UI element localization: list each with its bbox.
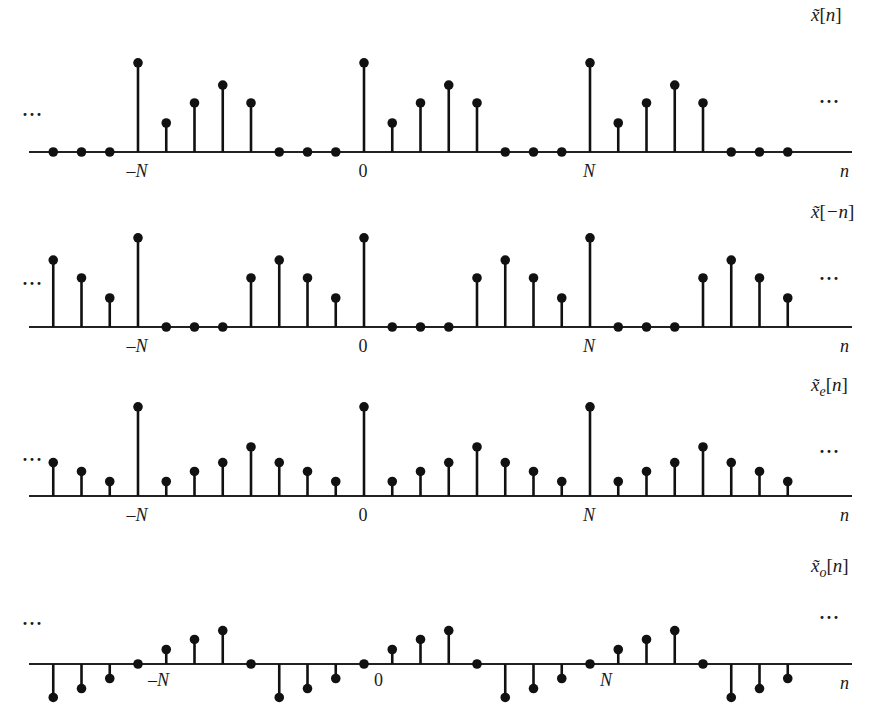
sample-dot bbox=[416, 322, 426, 332]
sample-dot bbox=[274, 458, 284, 468]
sample-dot bbox=[246, 273, 256, 283]
sample-dot bbox=[48, 458, 58, 468]
stem-sample bbox=[529, 664, 539, 693]
stem-sample bbox=[500, 147, 510, 157]
signal-label: x̃o[n] bbox=[810, 555, 849, 580]
sample-dot bbox=[557, 477, 567, 487]
sample-dot bbox=[642, 467, 652, 477]
stem-sample bbox=[274, 255, 284, 327]
sample-dot bbox=[77, 684, 87, 694]
stem-sample bbox=[613, 322, 623, 332]
axis-label-n: n bbox=[840, 673, 849, 693]
stem-sample bbox=[161, 118, 171, 152]
sample-dot bbox=[642, 322, 652, 332]
sample-dot bbox=[472, 273, 482, 283]
stem-sample bbox=[190, 635, 200, 664]
stem-sample bbox=[133, 402, 143, 496]
plot-x-reversed: –N0Nnx̃[−n]······ bbox=[22, 201, 854, 356]
sample-dot bbox=[726, 255, 736, 265]
sample-dot bbox=[246, 659, 256, 669]
stem-sample bbox=[246, 273, 256, 327]
axis-label-n: n bbox=[840, 161, 849, 181]
stem-sample bbox=[246, 98, 256, 152]
stem-sample bbox=[755, 273, 765, 327]
sample-dot bbox=[218, 626, 228, 636]
stem-sample bbox=[161, 645, 171, 664]
sample-dot bbox=[133, 58, 143, 68]
stem-sample bbox=[190, 98, 200, 152]
stem-sample bbox=[303, 147, 313, 157]
stem-sample bbox=[331, 664, 341, 683]
sample-dot bbox=[274, 255, 284, 265]
sample-dot bbox=[557, 293, 567, 303]
stem-sample bbox=[585, 233, 595, 327]
plot-x-even: –N0Nnx̃e[n]······ bbox=[22, 374, 852, 525]
stem-sample bbox=[755, 664, 765, 693]
stem-sample bbox=[529, 273, 539, 327]
sample-dot bbox=[359, 58, 369, 68]
sample-dot bbox=[246, 442, 256, 452]
sample-dot bbox=[246, 98, 256, 108]
sample-dot bbox=[190, 635, 200, 645]
sample-dot bbox=[726, 147, 736, 157]
sample-dot bbox=[133, 402, 143, 412]
stem-sample bbox=[218, 80, 228, 152]
sample-dot bbox=[472, 659, 482, 669]
sample-dot bbox=[444, 80, 454, 90]
stem-sample bbox=[133, 659, 143, 669]
stem-sample bbox=[161, 322, 171, 332]
sample-dot bbox=[726, 458, 736, 468]
stem-sample bbox=[585, 659, 595, 669]
stem-sample bbox=[105, 664, 115, 683]
sample-dot bbox=[500, 255, 510, 265]
sample-dot bbox=[387, 118, 397, 128]
sample-dot bbox=[557, 674, 567, 684]
stem-sample bbox=[670, 80, 680, 152]
sample-dot bbox=[359, 659, 369, 669]
stem-sample bbox=[359, 58, 369, 152]
stem-sample bbox=[726, 458, 736, 496]
stem-sample bbox=[698, 442, 708, 496]
stem-sample bbox=[670, 458, 680, 496]
sample-dot bbox=[698, 442, 708, 452]
sample-dot bbox=[48, 693, 58, 703]
sample-dot bbox=[387, 322, 397, 332]
stem-sample bbox=[48, 664, 58, 702]
sample-dot bbox=[416, 98, 426, 108]
sample-dot bbox=[642, 635, 652, 645]
sample-dot bbox=[444, 322, 454, 332]
sample-dot bbox=[698, 659, 708, 669]
stem-sample bbox=[274, 147, 284, 157]
sample-dot bbox=[161, 322, 171, 332]
sample-dot bbox=[274, 693, 284, 703]
sample-dot bbox=[698, 98, 708, 108]
stem-sample bbox=[416, 635, 426, 664]
sample-dot bbox=[472, 442, 482, 452]
sample-dot bbox=[105, 674, 115, 684]
sample-dot bbox=[585, 659, 595, 669]
sample-dot bbox=[161, 118, 171, 128]
sample-dot bbox=[331, 477, 341, 487]
stem-sample bbox=[472, 659, 482, 669]
sample-dot bbox=[133, 659, 143, 669]
ellipsis-right: ··· bbox=[819, 442, 840, 462]
sample-dot bbox=[274, 147, 284, 157]
sample-dot bbox=[755, 684, 765, 694]
stem-sample bbox=[105, 477, 115, 496]
stem-sample bbox=[416, 467, 426, 496]
sample-dot bbox=[416, 635, 426, 645]
tick-label: N bbox=[582, 336, 596, 356]
sample-dot bbox=[500, 458, 510, 468]
stem-sample bbox=[585, 402, 595, 496]
stem-sample bbox=[472, 98, 482, 152]
stem-sample bbox=[585, 58, 595, 152]
stem-sample bbox=[303, 273, 313, 327]
stem-sample bbox=[726, 255, 736, 327]
stem-sample bbox=[274, 458, 284, 496]
sample-dot bbox=[585, 402, 595, 412]
stem-sample bbox=[726, 147, 736, 157]
sample-dot bbox=[755, 147, 765, 157]
sample-dot bbox=[133, 233, 143, 243]
stem-sample bbox=[218, 626, 228, 664]
stem-sample bbox=[613, 645, 623, 664]
